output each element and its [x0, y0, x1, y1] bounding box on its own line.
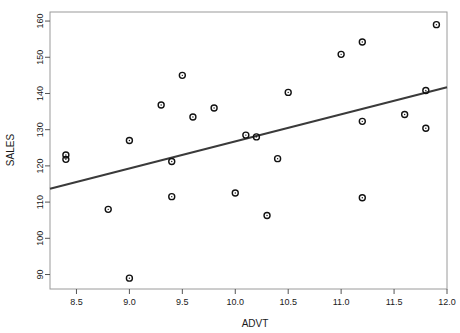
y-axis-ticks: 90100110120130140150160 — [35, 14, 50, 280]
data-point-center — [129, 277, 130, 278]
y-tick-label: 100 — [35, 231, 45, 246]
y-axis-label: SALES — [5, 134, 16, 167]
x-tick-label: 11.5 — [386, 297, 403, 307]
plot-frame — [50, 12, 447, 289]
plot-canvas: 8.59.09.510.010.511.011.512.0 9010011012… — [0, 0, 460, 333]
data-point-center — [425, 128, 426, 129]
data-point-center — [404, 114, 405, 115]
x-tick-label: 9.0 — [123, 297, 136, 307]
data-point-center — [171, 161, 172, 162]
data-point-center — [129, 140, 130, 141]
data-point-center — [277, 158, 278, 159]
x-tick-label: 11.0 — [333, 297, 350, 307]
data-point-center — [182, 75, 183, 76]
data-point-center — [288, 92, 289, 93]
data-point-center — [160, 104, 161, 105]
x-tick-label: 10.0 — [227, 297, 245, 307]
data-point-center — [362, 121, 363, 122]
y-tick-label: 110 — [35, 195, 45, 209]
x-tick-label: 8.5 — [70, 297, 83, 307]
y-tick-label: 140 — [35, 86, 45, 101]
x-tick-label: 9.5 — [176, 297, 189, 307]
x-tick-label: 10.5 — [279, 297, 297, 307]
data-points — [63, 22, 440, 281]
scatter-plot-figure: 8.59.09.510.010.511.011.512.0 9010011012… — [0, 0, 460, 333]
data-point-center — [171, 196, 172, 197]
data-point-center — [425, 90, 426, 91]
y-tick-label: 130 — [35, 122, 45, 137]
x-axis-ticks: 8.59.09.510.010.511.011.512.0 — [70, 289, 456, 307]
y-tick-label: 160 — [35, 14, 45, 29]
data-point-center — [245, 134, 246, 135]
regression-line — [50, 87, 447, 188]
y-tick-label: 90 — [35, 270, 45, 280]
data-point-center — [436, 24, 437, 25]
data-point-center — [340, 54, 341, 55]
y-tick-label: 120 — [35, 158, 45, 173]
data-point-center — [108, 209, 109, 210]
data-point-center — [192, 116, 193, 117]
data-point-center — [235, 192, 236, 193]
data-point-center — [65, 154, 66, 155]
data-point-center — [362, 41, 363, 42]
x-tick-label: 12.0 — [438, 297, 456, 307]
data-point-center — [256, 136, 257, 137]
data-point-center — [266, 215, 267, 216]
data-point-center — [65, 159, 66, 160]
x-axis-label: ADVT — [242, 318, 269, 329]
data-point-center — [213, 107, 214, 108]
y-tick-label: 150 — [35, 50, 45, 65]
data-point-center — [362, 197, 363, 198]
